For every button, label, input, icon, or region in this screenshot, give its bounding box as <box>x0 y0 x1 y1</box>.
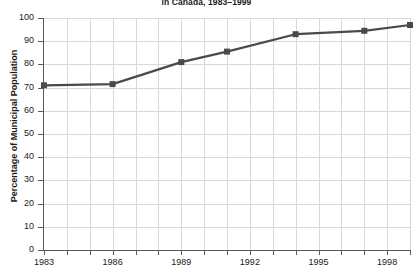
y-tick-label: 40 <box>0 151 34 161</box>
y-tick-mark <box>38 227 43 228</box>
y-tick-mark <box>38 180 43 181</box>
x-tick-mark <box>250 250 251 255</box>
x-tick-mark <box>204 250 205 255</box>
x-tick-mark <box>113 250 114 255</box>
y-tick-label: 70 <box>0 82 34 92</box>
data-point-marker <box>224 49 230 55</box>
x-tick-mark <box>273 250 274 255</box>
x-tick-mark <box>341 250 342 255</box>
y-tick-mark <box>38 64 43 65</box>
x-tick-label: 1992 <box>230 257 270 267</box>
x-tick-label: 1983 <box>24 257 64 267</box>
y-tick-label: 0 <box>0 244 34 254</box>
y-tick-mark <box>38 250 43 251</box>
y-tick-label: 90 <box>0 35 34 45</box>
data-point-marker <box>178 59 184 65</box>
data-point-marker <box>407 22 413 28</box>
y-tick-label: 10 <box>0 221 34 231</box>
x-tick-mark <box>319 250 320 255</box>
y-tick-label: 100 <box>0 12 34 22</box>
x-tick-mark <box>410 250 411 255</box>
y-tick-mark <box>38 134 43 135</box>
y-tick-label: 80 <box>0 58 34 68</box>
line-chart: in Canada, 1983–1999 Percentage of Munic… <box>0 0 413 269</box>
y-tick-mark <box>38 204 43 205</box>
y-tick-label: 50 <box>0 128 34 138</box>
y-tick-mark <box>38 18 43 19</box>
x-tick-label: 1986 <box>93 257 133 267</box>
x-tick-label: 1998 <box>367 257 407 267</box>
x-tick-mark <box>67 250 68 255</box>
data-point-marker <box>361 28 367 34</box>
x-tick-mark <box>387 250 388 255</box>
y-tick-mark <box>38 41 43 42</box>
y-tick-mark <box>38 88 43 89</box>
x-tick-label: 1995 <box>299 257 339 267</box>
x-tick-mark <box>181 250 182 255</box>
y-tick-label: 20 <box>0 198 34 208</box>
x-tick-label: 1989 <box>161 257 201 267</box>
x-tick-mark <box>227 250 228 255</box>
series-line-path <box>44 25 410 85</box>
data-point-marker <box>110 81 116 87</box>
x-tick-mark <box>90 250 91 255</box>
x-tick-mark <box>296 250 297 255</box>
x-tick-mark <box>364 250 365 255</box>
y-tick-mark <box>38 111 43 112</box>
data-point-marker <box>293 31 299 37</box>
x-tick-mark <box>44 250 45 255</box>
series-layer <box>0 0 413 269</box>
x-tick-mark <box>136 250 137 255</box>
y-tick-label: 60 <box>0 105 34 115</box>
x-tick-mark <box>158 250 159 255</box>
y-tick-mark <box>38 157 43 158</box>
y-tick-label: 30 <box>0 174 34 184</box>
